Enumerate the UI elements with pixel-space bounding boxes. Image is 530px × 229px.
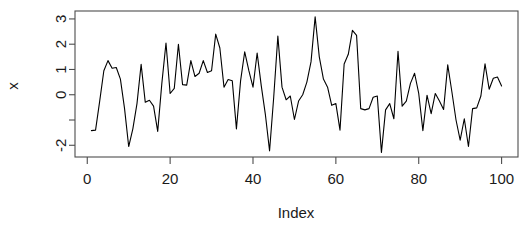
y-axis-ticks	[69, 19, 75, 145]
x-axis-title: Index	[278, 204, 315, 221]
y-tick-label: 2	[53, 40, 70, 48]
x-axis-ticks	[87, 157, 501, 164]
x-tick-label: 20	[162, 170, 179, 187]
plot-frame-box	[75, 11, 518, 157]
x-tick-label: 80	[410, 170, 427, 187]
x-axis-tick-labels: 020406080100	[83, 170, 514, 187]
y-tick-label: 0	[53, 91, 70, 99]
y-tick-label: 1	[53, 65, 70, 73]
y-axis-title: x	[4, 82, 21, 90]
x-tick-label: 40	[245, 170, 262, 187]
y-tick-label: 3	[53, 15, 70, 23]
x-tick-label: 60	[328, 170, 345, 187]
x-tick-label: 0	[83, 170, 91, 187]
y-tick-label: -2	[53, 139, 70, 152]
y-axis-tick-labels: -20123	[53, 15, 70, 152]
data-series-x	[91, 17, 501, 152]
x-tick-label: 100	[489, 170, 514, 187]
line-chart: -20123 020406080100 Index x	[0, 0, 530, 229]
r-plot-canvas: -20123 020406080100 Index x	[0, 0, 530, 229]
